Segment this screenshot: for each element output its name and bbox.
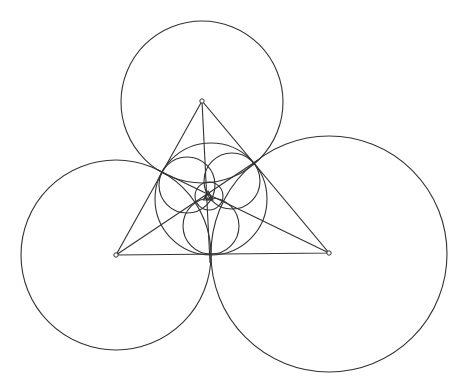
- vertex-a-marker: [200, 99, 204, 103]
- triangle-abc: [116, 101, 329, 255]
- triangle: [116, 101, 329, 255]
- vertex-b-marker: [114, 253, 118, 257]
- petal-right: [204, 153, 260, 209]
- vertex-circles: [21, 21, 447, 372]
- vertex-markers: [114, 99, 331, 257]
- cevian-C: [158, 170, 329, 253]
- vertex-c-marker: [327, 251, 331, 255]
- geometric-diagram: [0, 0, 465, 392]
